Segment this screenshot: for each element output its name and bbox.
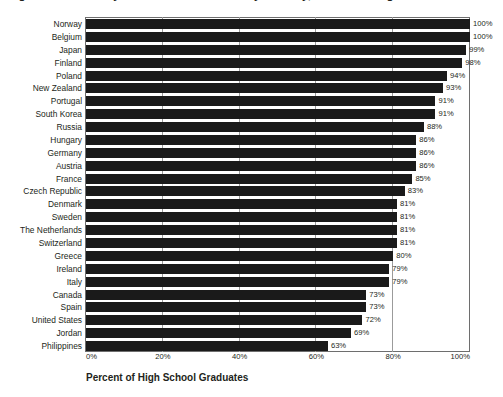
bar-row: Ireland79%: [0, 262, 503, 276]
bar: [86, 315, 362, 325]
bar-value-label: 79%: [392, 265, 407, 273]
bar-row: United States72%: [0, 313, 503, 327]
bar: [86, 212, 397, 222]
bar-row: Norway100%: [0, 17, 503, 31]
category-label: The Netherlands: [20, 226, 82, 234]
bar: [86, 199, 397, 209]
category-label: Switzerland: [39, 239, 82, 247]
category-label: Poland: [56, 71, 82, 79]
bar-value-label: 69%: [354, 329, 369, 337]
bar-row: France85%: [0, 172, 503, 186]
bar: [86, 135, 416, 145]
bar: [86, 45, 466, 55]
bar-row: Russia88%: [0, 120, 503, 134]
bar: [86, 71, 447, 81]
bar-row: Denmark81%: [0, 197, 503, 211]
bar-row: Czech Republic83%: [0, 185, 503, 199]
bar-row: Germany86%: [0, 146, 503, 160]
bar-value-label: 93%: [446, 85, 461, 93]
category-label: Greece: [55, 252, 82, 260]
bar-row: Japan99%: [0, 43, 503, 57]
category-label: Sweden: [52, 213, 82, 221]
bar-row: The Netherlands81%: [0, 223, 503, 237]
bar-row: Finland98%: [0, 56, 503, 70]
category-label: Austria: [56, 161, 82, 169]
bar-value-label: 86%: [419, 149, 434, 157]
bar: [86, 19, 470, 29]
bar-value-label: 63%: [331, 342, 346, 350]
bar-row: Poland94%: [0, 69, 503, 83]
bar: [86, 225, 397, 235]
bar: [86, 341, 328, 351]
bar-value-label: 72%: [365, 317, 380, 325]
bar: [86, 161, 416, 171]
bar-row: Switzerland81%: [0, 236, 503, 250]
bar-row: Italy79%: [0, 275, 503, 289]
bar-value-label: 91%: [438, 110, 453, 118]
bar: [86, 251, 393, 261]
category-label: Norway: [54, 20, 82, 28]
bar-row: Austria86%: [0, 159, 503, 173]
bar: [86, 96, 435, 106]
category-label: France: [56, 174, 82, 182]
x-tick-label: 40%: [232, 353, 247, 361]
bar-value-label: 99%: [469, 46, 484, 54]
x-tick-label: 0%: [86, 353, 97, 361]
category-label: Italy: [67, 277, 82, 285]
bar-value-label: 86%: [419, 136, 434, 144]
category-label: Hungary: [50, 136, 82, 144]
bar: [86, 290, 366, 300]
bar: [86, 109, 435, 119]
bar: [86, 58, 462, 68]
bar: [86, 122, 424, 132]
bar-value-label: 81%: [400, 213, 415, 221]
x-axis-title: Percent of High School Graduates: [86, 372, 248, 383]
bar-row: Hungary86%: [0, 133, 503, 147]
bar: [86, 174, 412, 184]
category-label: Ireland: [56, 265, 82, 273]
bar-value-label: 83%: [408, 188, 423, 196]
bar-value-label: 81%: [400, 226, 415, 234]
category-label: Czech Republic: [23, 187, 82, 195]
bar: [86, 148, 416, 158]
x-tick-label: 60%: [309, 353, 324, 361]
category-label: Spain: [61, 303, 82, 311]
bar-row: Jordan69%: [0, 326, 503, 340]
bar-value-label: 85%: [415, 175, 430, 183]
category-label: Denmark: [48, 200, 82, 208]
bar-row: Philippines63%: [0, 339, 503, 353]
category-label: Finland: [55, 58, 82, 66]
bar: [86, 277, 389, 287]
category-label: Jordan: [56, 329, 82, 337]
bar-value-label: 86%: [419, 162, 434, 170]
x-tick-label: 20%: [155, 353, 170, 361]
bar: [86, 32, 470, 42]
category-label: United States: [32, 316, 82, 324]
category-label: Belgium: [52, 33, 82, 41]
bar-value-label: 81%: [400, 239, 415, 247]
category-label: South Korea: [35, 110, 82, 118]
bar-value-label: 80%: [396, 252, 411, 260]
bar-row: Greece80%: [0, 249, 503, 263]
bar: [86, 264, 389, 274]
category-label: Russia: [56, 123, 82, 131]
bar-row: New Zealand93%: [0, 81, 503, 95]
bar-value-label: 100%: [473, 33, 492, 41]
bar-value-label: 73%: [369, 304, 384, 312]
bar-value-label: 98%: [465, 59, 480, 67]
bar-row: Canada73%: [0, 288, 503, 302]
category-label: Philippines: [41, 342, 82, 350]
bar-row: Spain73%: [0, 300, 503, 314]
category-label: Germany: [48, 149, 82, 157]
bar-row: Sweden81%: [0, 210, 503, 224]
bar-value-label: 81%: [400, 201, 415, 209]
bar: [86, 302, 366, 312]
category-label: Japan: [59, 46, 82, 54]
bar-rows: Norway100%Belgium100%Japan99%Finland98%P…: [0, 17, 503, 352]
bar-row: Belgium100%: [0, 30, 503, 44]
bar-value-label: 94%: [450, 72, 465, 80]
bar: [86, 238, 397, 248]
x-axis-ticks: 0%20%40%60%80%100%: [0, 353, 503, 367]
bar: [86, 83, 443, 93]
bar-value-label: 79%: [392, 278, 407, 286]
